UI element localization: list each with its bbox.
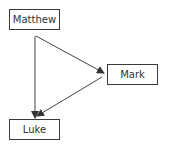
node-luke: Luke	[9, 119, 60, 140]
edge-mark-luke	[37, 77, 102, 116]
node-label: Mark	[120, 69, 145, 80]
node-label: Luke	[23, 124, 46, 135]
edge-matthew-mark	[36, 36, 104, 73]
node-matthew: Matthew	[9, 9, 60, 30]
node-mark: Mark	[107, 64, 158, 85]
node-label: Matthew	[13, 14, 56, 25]
